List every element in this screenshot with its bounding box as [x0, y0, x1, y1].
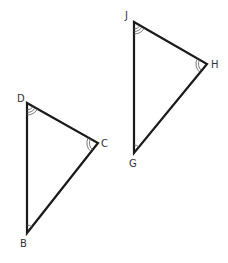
- triangle-ghj: J H G: [124, 10, 219, 169]
- vertex-label-h: H: [211, 59, 219, 70]
- vertex-label-c: C: [101, 138, 108, 149]
- vertex-label-g: G: [129, 158, 137, 169]
- triangle-bcd: D C B: [17, 93, 108, 249]
- triangle-ghj-outline: [134, 22, 207, 153]
- vertex-label-j: J: [124, 10, 128, 21]
- vertex-label-b: B: [20, 238, 27, 249]
- diagram-canvas: D C B J H G: [0, 0, 228, 263]
- vertex-label-d: D: [17, 93, 25, 104]
- triangle-bcd-outline: [27, 103, 98, 233]
